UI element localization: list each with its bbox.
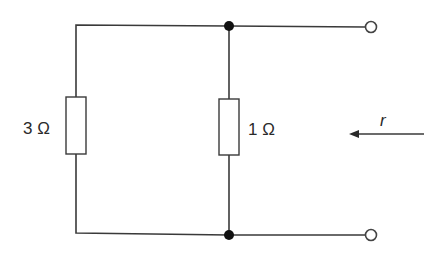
resistor-3-ohm-label: 3 Ω [23, 119, 50, 138]
resistor-1-ohm [219, 99, 239, 155]
bottom-wire [76, 154, 365, 235]
arrow-left-icon [349, 130, 359, 138]
bottom-terminal [366, 230, 377, 241]
circuit-diagram: 3 Ω 1 Ω r [0, 0, 443, 260]
arrow-label: r [380, 111, 387, 130]
top-junction-dot [224, 21, 234, 31]
top-wire [76, 25, 365, 97]
resistor-1-ohm-label: 1 Ω [248, 120, 275, 139]
resistor-3-ohm [66, 97, 86, 154]
circuit-svg: 3 Ω 1 Ω r [0, 0, 443, 260]
top-terminal [366, 22, 377, 33]
bottom-junction-dot [224, 230, 234, 240]
